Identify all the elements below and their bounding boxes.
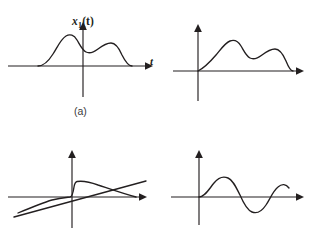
signal-ramp-c	[14, 181, 146, 217]
signal-label-a-base: x	[72, 15, 78, 27]
signal-curve-b	[198, 40, 293, 71]
signal-curve-d	[199, 177, 289, 212]
y-axis-arrow-b	[194, 24, 202, 32]
t-axis-arrow-b	[296, 67, 304, 75]
panel-d: x4(t) t (d)	[163, 125, 325, 250]
signal-label-a-arg: (t)	[82, 15, 94, 27]
panel-b: x2(t) t (b)	[163, 0, 325, 125]
signal-curve-a	[38, 35, 132, 66]
plot-b	[163, 0, 325, 125]
y-axis-arrow-d	[195, 150, 203, 158]
signal-label-a: x1(t)	[72, 16, 94, 30]
y-axis-arrow-c	[68, 150, 76, 158]
panel-c: x3(t) t (c)	[0, 125, 162, 250]
t-axis-arrow-d	[296, 193, 304, 201]
t-axis-arrow-c	[139, 193, 147, 201]
caption-a: (a)	[74, 106, 87, 117]
t-axis-label-a: t	[150, 56, 153, 67]
plot-c	[0, 125, 162, 250]
plot-d	[163, 125, 325, 250]
figure-sheet: x1(t) t (a) x2(t) t (b)	[0, 0, 325, 250]
panel-a: x1(t) t (a)	[0, 0, 162, 125]
